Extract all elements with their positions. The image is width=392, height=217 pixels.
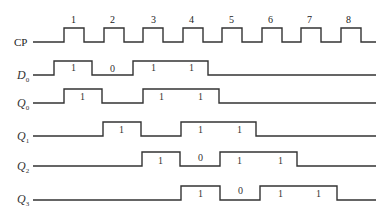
signal-row-q1: Q1 1 1 1 [17, 122, 376, 145]
pulse-number-7: 7 [307, 14, 312, 25]
value-label: 1 [198, 188, 203, 199]
pulse-number-2: 2 [110, 14, 115, 25]
value-label: 1 [316, 188, 321, 199]
value-label: 0 [238, 185, 243, 196]
signal-label-d0: D0 [16, 68, 30, 84]
waveform-q3 [33, 186, 376, 200]
waveform-d0 [33, 61, 376, 75]
value-label: 1 [198, 124, 203, 135]
pulse-number-8: 8 [346, 14, 351, 25]
value-label: 0 [110, 63, 115, 74]
value-label: 0 [198, 152, 203, 163]
waveform-q2 [33, 152, 376, 166]
clock-row: CP 1 2 3 4 5 6 7 8 [14, 14, 376, 48]
value-label: 1 [119, 124, 124, 135]
clock-label: CP [14, 36, 27, 48]
signal-label-q1: Q1 [17, 129, 30, 145]
pulse-number-3: 3 [151, 14, 156, 25]
timing-diagram: CP 1 2 3 4 5 6 7 8 D0 1 0 1 1 Q0 1 1 1 Q… [0, 0, 392, 217]
value-label: 1 [278, 155, 283, 166]
pulse-number-1: 1 [71, 14, 76, 25]
signal-label-q0: Q0 [17, 96, 30, 112]
signal-row-d0: D0 1 0 1 1 [16, 61, 376, 84]
signal-label-q3: Q3 [17, 192, 30, 208]
value-label: 1 [237, 155, 242, 166]
value-label: 1 [237, 124, 242, 135]
pulse-number-4: 4 [189, 14, 194, 25]
value-label: 1 [278, 188, 283, 199]
signal-row-q3: Q3 1 0 1 1 [17, 185, 376, 208]
value-label: 1 [158, 155, 163, 166]
value-label: 1 [198, 91, 203, 102]
clock-waveform [33, 28, 376, 42]
signal-row-q2: Q2 1 0 1 1 [17, 152, 376, 175]
value-label: 1 [71, 62, 76, 73]
waveform-q1 [33, 122, 376, 136]
value-label: 1 [159, 91, 164, 102]
value-label: 1 [80, 91, 85, 102]
value-label: 1 [189, 62, 194, 73]
value-label: 1 [151, 62, 156, 73]
signal-row-q0: Q0 1 1 1 [17, 89, 376, 112]
signal-label-q2: Q2 [17, 159, 30, 175]
pulse-number-5: 5 [229, 14, 234, 25]
pulse-number-6: 6 [268, 14, 273, 25]
